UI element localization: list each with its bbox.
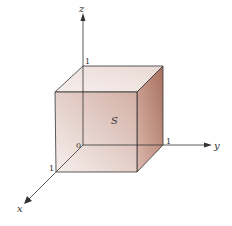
unit-cube-diagram: z y x 1 1 1 0 S [0,0,232,226]
x-axis-label: x [17,203,23,214]
y-tick-label: 1 [166,137,171,146]
x-axis [28,172,56,200]
y-axis-label: y [213,140,220,151]
origin-label: 0 [76,141,81,150]
surface-label: S [111,115,118,126]
y-axis-arrowhead-icon [204,143,212,148]
cube-front-face [55,92,137,172]
x-tick-label: 1 [49,164,54,173]
z-axis-label: z [78,3,85,14]
z-axis-arrowhead-icon [81,13,86,21]
z-tick-label: 1 [85,57,90,66]
